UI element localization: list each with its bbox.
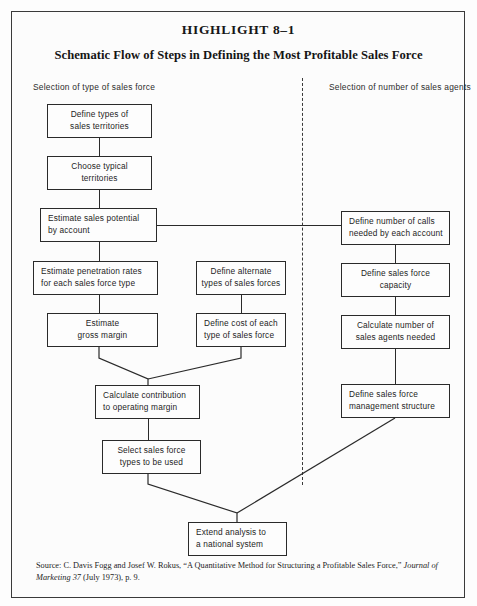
connector-define-types-to-choose-typical [99, 138, 100, 156]
connector-calculate-agents-to-management [395, 349, 396, 384]
node-label: Calculate contribution to operating marg… [103, 390, 186, 414]
lane-divider-dashed [302, 78, 303, 485]
column-header-right: Selection of number of sales agents [329, 82, 471, 92]
node-label: Define sales force management structure [349, 389, 435, 413]
node-label: Choose typical territories [71, 161, 128, 185]
node-define-number-of-calls[interactable]: Define number of calls needed by each ac… [341, 211, 450, 245]
node-label: Define alternate types of sales forces [202, 266, 281, 290]
connector-estimate-potential-to-penetration [99, 242, 100, 261]
connector-estimate-potential-to-define-calls [157, 225, 341, 226]
node-label: Estimate gross margin [78, 318, 128, 342]
node-estimate-penetration-rates[interactable]: Estimate penetration rates for each sale… [33, 261, 158, 295]
node-define-alternate-types[interactable]: Define alternate types of sales forces [196, 261, 286, 295]
node-label: Define sales force capacity [361, 268, 430, 292]
source-suffix: (July 1973), p. 9. [81, 573, 140, 582]
connector-define-calls-to-capacity [395, 245, 396, 263]
node-label: Define types of sales territories [70, 109, 129, 133]
node-label: Define cost of each type of sales force [204, 318, 278, 342]
node-define-sales-force-capacity[interactable]: Define sales force capacity [341, 263, 450, 297]
node-define-cost[interactable]: Define cost of each type of sales force [196, 313, 286, 347]
connector-capacity-to-calculate-agents [395, 297, 396, 315]
column-header-left: Selection of type of sales force [33, 82, 155, 92]
node-extend-analysis[interactable]: Extend analysis to a national system [188, 522, 287, 556]
source-prefix: Source: C. Davis Fogg and Josef W. Rokus… [36, 561, 404, 570]
node-label: Extend analysis to a national system [196, 527, 266, 551]
node-label: Estimate penetration rates for each sale… [41, 266, 142, 290]
connector-define-alternate-to-define-cost [241, 295, 242, 313]
node-calculate-contribution[interactable]: Calculate contribution to operating marg… [95, 385, 200, 419]
node-estimate-gross-margin[interactable]: Estimate gross margin [47, 313, 158, 347]
exhibit-frame [11, 11, 465, 598]
connector-contribution-to-select-types [148, 419, 149, 440]
node-define-types[interactable]: Define types of sales territories [47, 104, 152, 138]
highlight-label: HIGHLIGHT 8–1 [0, 22, 477, 38]
node-define-management-structure[interactable]: Define sales force management structure [341, 384, 450, 418]
connector-choose-typical-to-estimate-potential [99, 190, 100, 208]
source-note: Source: C. Davis Fogg and Josef W. Rokus… [36, 560, 444, 584]
node-label: Define number of calls needed by each ac… [349, 216, 443, 240]
node-label: Estimate sales potential by account [48, 213, 139, 237]
node-label: Calculate number of sales agents needed [356, 320, 435, 344]
node-estimate-sales-potential[interactable]: Estimate sales potential by account [40, 208, 157, 242]
node-select-sales-force-types[interactable]: Select sales force types to be used [102, 440, 201, 474]
exhibit-subtitle: Schematic Flow of Steps in Defining the … [0, 48, 477, 63]
connector-penetration-to-gross-margin [99, 295, 100, 313]
node-choose-typical[interactable]: Choose typical territories [47, 156, 152, 190]
node-label: Select sales force types to be used [117, 445, 185, 469]
node-calculate-sales-agents[interactable]: Calculate number of sales agents needed [341, 315, 450, 349]
exhibit-page: HIGHLIGHT 8–1 Schematic Flow of Steps in… [0, 0, 477, 606]
